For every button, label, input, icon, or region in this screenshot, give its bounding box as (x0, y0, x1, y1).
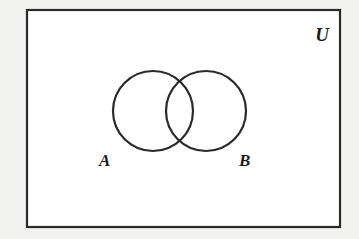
venn-diagram: U A B (0, 0, 359, 239)
set-b-label: B (238, 151, 250, 170)
set-a-label: A (98, 151, 110, 170)
universal-set-label: U (315, 24, 330, 45)
universal-set-rectangle (27, 10, 340, 227)
